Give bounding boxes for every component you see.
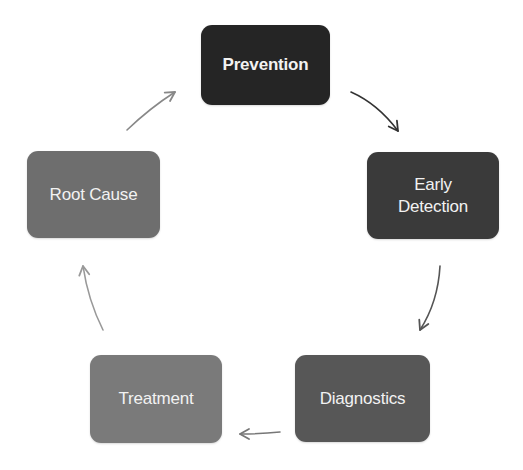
arrowhead-icon: [389, 121, 402, 134]
arrow-early-detection-to-diagnostics: [415, 266, 440, 332]
cycle-diagram: Prevention Early Detection Diagnostics T…: [0, 0, 523, 470]
arrow-diagnostics-to-treatment: [240, 429, 280, 439]
arrow-root-cause-to-prevention: [127, 88, 178, 130]
node-label-early-detection: Early Detection: [392, 174, 474, 218]
node-treatment: Treatment: [90, 355, 222, 443]
arrow-prevention-to-early-detection: [351, 92, 402, 134]
node-label-treatment: Treatment: [112, 388, 199, 410]
arrowhead-icon: [415, 320, 428, 332]
node-label-root-cause: Root Cause: [44, 184, 144, 206]
arrowhead-icon: [240, 429, 249, 439]
node-prevention: Prevention: [201, 25, 330, 105]
arrowhead-icon: [78, 265, 89, 275]
arrowhead-icon: [165, 88, 178, 101]
node-early-detection: Early Detection: [367, 152, 499, 239]
node-diagnostics: Diagnostics: [295, 355, 430, 442]
node-label-prevention: Prevention: [217, 54, 315, 76]
arrow-treatment-to-root-cause: [78, 265, 103, 330]
node-root-cause: Root Cause: [27, 151, 160, 238]
node-label-diagnostics: Diagnostics: [314, 388, 412, 410]
